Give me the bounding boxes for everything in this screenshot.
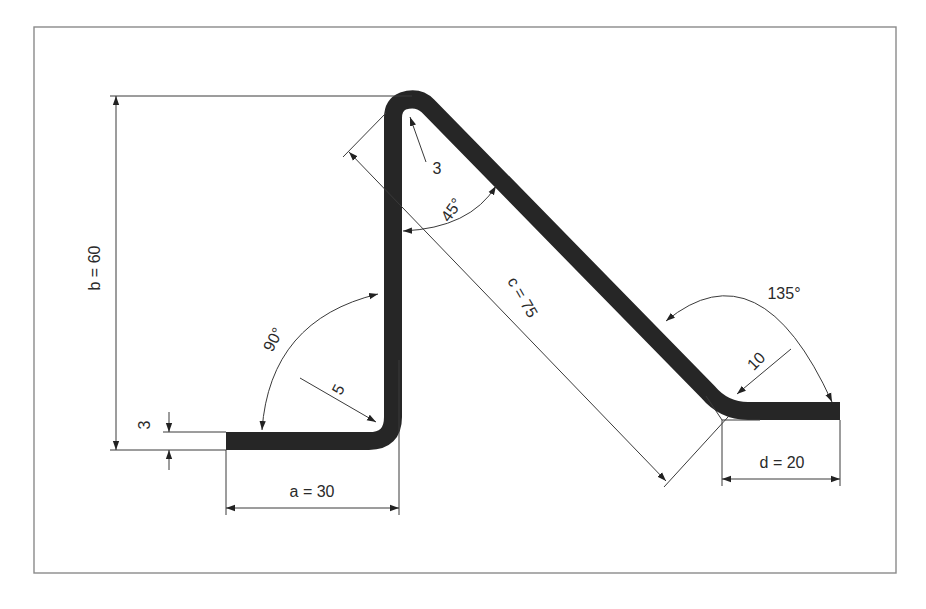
dimension-b: b = 60 — [86, 96, 412, 450]
dimension-label-d: d = 20 — [760, 454, 805, 471]
dimension-label-a: a = 30 — [290, 483, 335, 500]
bent-strip-diagram: b = 60 3 a = 30 90° 5 3 45° c = 75 — [0, 0, 926, 609]
radius-10: 10 — [737, 349, 791, 394]
metal-strip — [226, 99, 840, 441]
dimension-label-c: c = 75 — [504, 274, 541, 321]
radius-label-3: 3 — [433, 160, 442, 177]
radius-label-10: 10 — [744, 349, 769, 374]
angle-label-90: 90° — [260, 325, 286, 354]
dimension-d: d = 20 — [722, 420, 840, 486]
angle-label-45: 45° — [438, 195, 466, 225]
angle-45: 45° — [403, 186, 496, 231]
radius-5: 5 — [300, 378, 376, 422]
radius-label-5: 5 — [329, 381, 348, 397]
angle-90: 90° — [260, 294, 378, 430]
angle-label-135: 135° — [767, 285, 800, 302]
dimension-thickness: 3 — [136, 412, 226, 470]
dimension-label-thickness: 3 — [136, 420, 153, 429]
dimension-label-b: b = 60 — [86, 245, 103, 290]
